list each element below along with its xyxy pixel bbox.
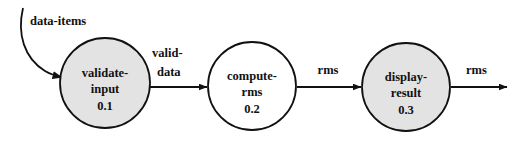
dfd-svg: data-items validate- input 0.1 valid- da… xyxy=(0,0,518,146)
process-number-compute-rms: 0.2 xyxy=(244,102,260,116)
flow-rms-1: rms xyxy=(297,63,361,87)
process-validate-input[interactable]: validate- input 0.1 xyxy=(60,38,150,128)
process-name-line2-validate-input: input xyxy=(91,82,120,96)
flow-label-data-items: data-items xyxy=(30,14,86,28)
process-name-line2-compute-rms: rms xyxy=(242,85,263,99)
flow-label-rms-2: rms xyxy=(466,63,487,77)
process-number-validate-input: 0.1 xyxy=(97,99,113,113)
dfd-canvas: data-items validate- input 0.1 valid- da… xyxy=(0,0,518,146)
flow-label-valid-data-line2: data xyxy=(157,65,181,79)
process-number-display-result: 0.3 xyxy=(398,103,414,117)
process-name-line1-validate-input: validate- xyxy=(82,66,129,80)
process-name-line1-display-result: display- xyxy=(385,70,427,84)
flow-valid-data: valid- data xyxy=(150,46,207,87)
process-name-line1-compute-rms: compute- xyxy=(227,69,277,83)
flow-label-valid-data-line1: valid- xyxy=(152,46,183,60)
flow-label-rms-1: rms xyxy=(318,63,339,77)
process-compute-rms[interactable]: compute- rms 0.2 xyxy=(208,42,296,130)
process-display-result[interactable]: display- result 0.3 xyxy=(362,43,450,131)
flow-rms-2: rms xyxy=(451,63,507,87)
process-name-line2-display-result: result xyxy=(391,86,422,100)
